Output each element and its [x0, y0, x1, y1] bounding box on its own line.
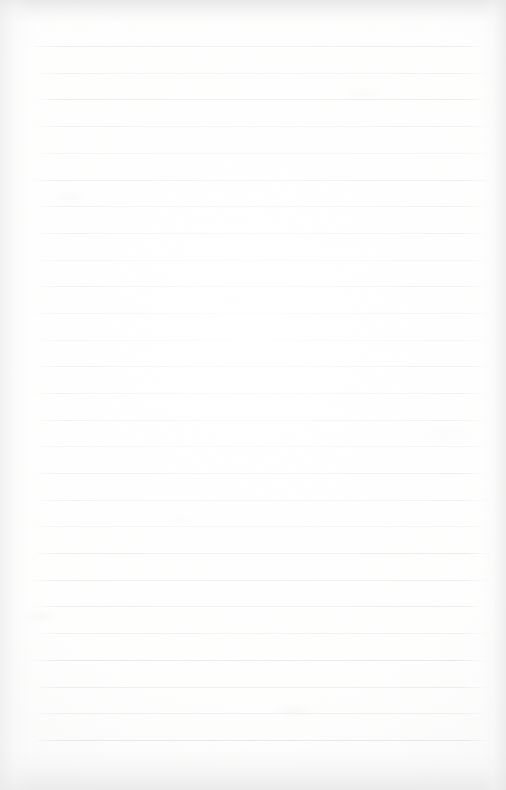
rule-line: [36, 633, 488, 634]
rule-line: [33, 260, 488, 261]
rule-line: [35, 687, 489, 688]
rule-line: [35, 153, 486, 154]
rule-line: [36, 99, 485, 100]
rule-line: [36, 233, 484, 234]
rule-line: [35, 286, 485, 287]
rule-line: [32, 446, 488, 447]
rule-line: [33, 526, 486, 527]
rule-line: [32, 46, 484, 47]
rule-line: [33, 660, 485, 661]
rule-line: [36, 500, 489, 501]
rule-line: [32, 713, 486, 714]
rule-line: [33, 393, 487, 394]
rule-line: [36, 366, 490, 367]
rule-line: [34, 606, 484, 607]
ruled-writing-area[interactable]: [0, 0, 506, 790]
rule-line: [34, 73, 488, 74]
rule-line: [34, 206, 487, 207]
rule-line: [32, 580, 487, 581]
rule-line: [35, 420, 484, 421]
rule-line: [34, 340, 486, 341]
rule-line: [33, 126, 489, 127]
rule-line: [34, 473, 485, 474]
notebook-page: [0, 0, 506, 790]
rule-line: [35, 553, 490, 554]
rule-line: [34, 740, 490, 741]
rule-line: [32, 180, 490, 181]
rule-line: [32, 313, 489, 314]
